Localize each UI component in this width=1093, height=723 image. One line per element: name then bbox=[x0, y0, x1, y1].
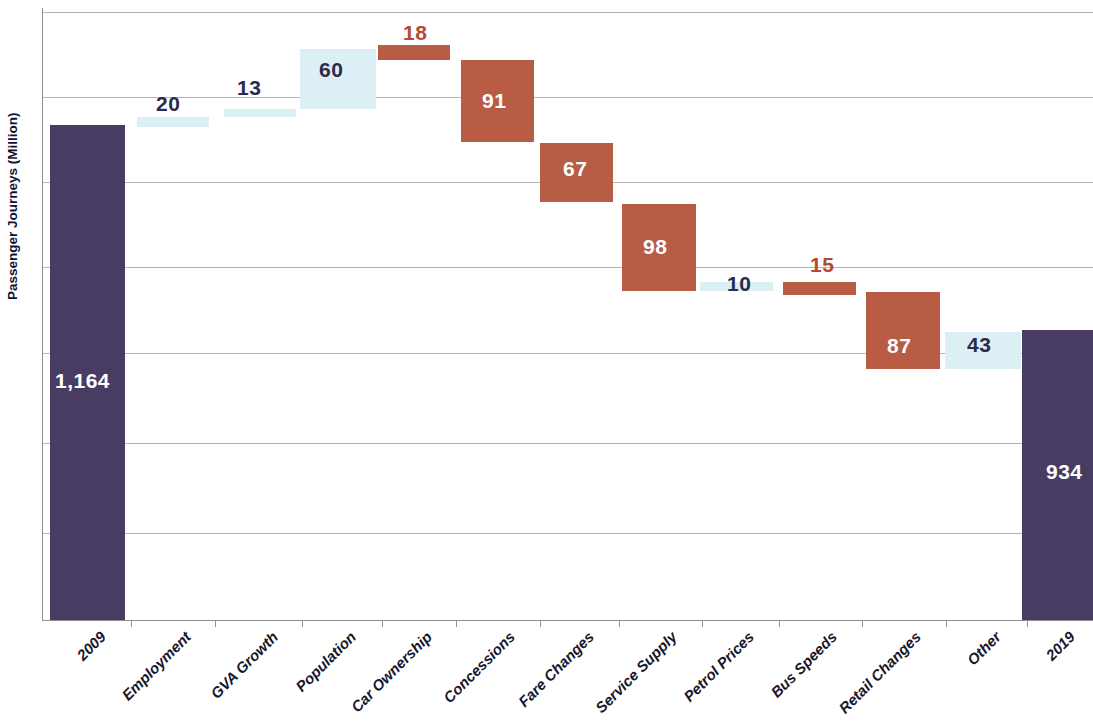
x-axis-label-text: Other bbox=[964, 628, 1004, 668]
gridline bbox=[42, 12, 1093, 13]
gridline bbox=[42, 97, 1093, 98]
bar-value-label: 43 bbox=[967, 333, 991, 357]
x-axis-label-text: GVA Growth bbox=[207, 628, 281, 702]
gridline bbox=[42, 443, 1093, 444]
x-axis-label-text: Service Supply bbox=[592, 628, 680, 716]
x-tick bbox=[302, 620, 303, 627]
x-axis-label-2019[interactable]: 2019 bbox=[1042, 628, 1078, 664]
x-axis-label-text: 2019 bbox=[1042, 628, 1078, 664]
bar-car-ownership[interactable] bbox=[378, 45, 450, 60]
bar-value-label: 91 bbox=[482, 89, 506, 113]
y-axis-title: Passenger Journeys (Million) bbox=[5, 112, 20, 300]
bar-value-label: 1,164 bbox=[55, 369, 110, 393]
x-tick bbox=[862, 620, 863, 627]
x-tick bbox=[382, 620, 383, 627]
x-axis-label-fare-changes[interactable]: Fare Changes bbox=[515, 628, 597, 710]
y-axis-line bbox=[42, 8, 43, 621]
x-tick bbox=[1027, 620, 1028, 627]
x-axis-labels: 2009EmploymentGVA GrowthPopulationCar Ow… bbox=[42, 628, 1093, 723]
x-tick bbox=[779, 620, 780, 627]
x-axis-label-population[interactable]: Population bbox=[292, 628, 359, 695]
x-axis-label-text: 2009 bbox=[73, 628, 109, 664]
x-axis-label-text: Bus Speeds bbox=[768, 628, 841, 701]
x-axis-label-service-supply[interactable]: Service Supply bbox=[592, 628, 680, 716]
x-tick bbox=[131, 620, 132, 627]
x-axis-line bbox=[42, 620, 1093, 621]
bar-employment[interactable] bbox=[137, 117, 209, 127]
x-tick bbox=[215, 620, 216, 627]
x-tick bbox=[946, 620, 947, 627]
x-axis-label-text: Car Ownership bbox=[347, 628, 434, 715]
bar-value-label: 60 bbox=[319, 58, 343, 82]
bar-value-label: 98 bbox=[643, 235, 667, 259]
plot-area: 1,1642013601891679810158743934 bbox=[42, 8, 1093, 620]
x-axis-label-text: Population bbox=[292, 628, 359, 695]
bar-value-label: 13 bbox=[237, 76, 261, 100]
x-tick bbox=[540, 620, 541, 627]
bar-value-label: 67 bbox=[563, 157, 587, 181]
x-tick bbox=[702, 620, 703, 627]
x-axis-label-bus-speeds[interactable]: Bus Speeds bbox=[768, 628, 841, 701]
bar-bus-speeds[interactable] bbox=[783, 282, 856, 295]
bar-value-label: 18 bbox=[403, 21, 427, 45]
bar-value-label: 87 bbox=[887, 334, 911, 358]
waterfall-chart: Passenger Journeys (Million) 1,164201360… bbox=[0, 0, 1093, 723]
x-axis-label-car-ownership[interactable]: Car Ownership bbox=[347, 628, 434, 715]
x-axis-label-text: Concessions bbox=[440, 628, 518, 706]
x-axis-label-concessions[interactable]: Concessions bbox=[440, 628, 518, 706]
x-tick bbox=[456, 620, 457, 627]
y-axis-title-wrap: Passenger Journeys (Million) bbox=[14, 0, 40, 612]
bar-value-label: 934 bbox=[1046, 460, 1083, 484]
bar-value-label: 10 bbox=[727, 272, 751, 296]
x-axis-label-gva-growth[interactable]: GVA Growth bbox=[207, 628, 281, 702]
gridline bbox=[42, 267, 1093, 268]
x-axis-label-employment[interactable]: Employment bbox=[118, 628, 194, 704]
bar-value-label: 15 bbox=[810, 253, 834, 277]
x-axis-label-retail-changes[interactable]: Retail Changes bbox=[835, 628, 924, 717]
x-axis-label-text: Fare Changes bbox=[515, 628, 597, 710]
x-axis-label-text: Employment bbox=[118, 628, 194, 704]
x-axis-label-text: Retail Changes bbox=[835, 628, 924, 717]
x-axis-label-2009[interactable]: 2009 bbox=[73, 628, 109, 664]
bar-gva-growth[interactable] bbox=[224, 109, 296, 117]
gridline bbox=[42, 533, 1093, 534]
bar-value-label: 20 bbox=[156, 92, 180, 116]
x-tick bbox=[619, 620, 620, 627]
x-axis-label-text: Petrol Prices bbox=[680, 628, 757, 705]
x-axis-label-petrol-prices[interactable]: Petrol Prices bbox=[680, 628, 757, 705]
x-axis-label-other[interactable]: Other bbox=[964, 628, 1004, 668]
